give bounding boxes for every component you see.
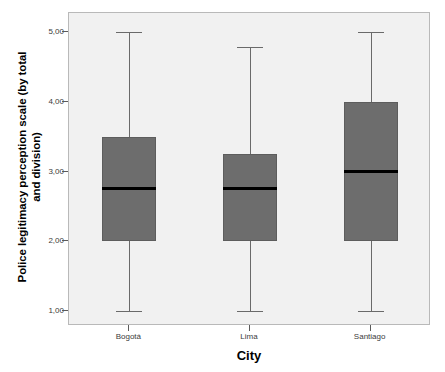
x-axis-tick-mark (249, 325, 250, 331)
y-axis-tick-label: 5,00 (28, 27, 64, 36)
x-axis-tick-label: Lima (204, 332, 294, 341)
y-axis-tick-label: 4,00 (28, 96, 64, 105)
whisker-upper (371, 32, 372, 102)
plot-area (68, 12, 430, 325)
whisker-cap-upper (358, 32, 384, 33)
x-axis-tick-label: Bogotá (83, 332, 173, 341)
y-axis-title-line-1: Police legitimacy perception scale (by t… (15, 17, 29, 317)
x-axis-tick-mark (128, 325, 129, 331)
x-axis-title: City (68, 348, 430, 363)
box-plot-item (69, 13, 431, 324)
median-line (344, 170, 398, 173)
x-axis-tick-label: Santiago (325, 332, 415, 341)
y-axis-tick-label: 2,00 (28, 236, 64, 245)
x-axis-tick-mark (370, 325, 371, 331)
y-axis-tick-label: 3,00 (28, 166, 64, 175)
whisker-cap-lower (358, 311, 384, 312)
box-plot-chart: Police legitimacy perception scale (by t… (0, 0, 445, 372)
y-axis-tick-label: 1,00 (28, 306, 64, 315)
whisker-lower (371, 241, 372, 311)
